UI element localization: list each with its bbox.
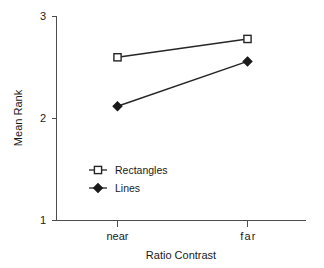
legend-label-rectangles: Rectangles	[115, 164, 168, 176]
series-rectangles-segment	[118, 39, 248, 57]
y-axis-title: Mean Rank	[12, 89, 24, 146]
series-rectangles	[114, 35, 251, 61]
legend-entry-lines: Lines	[89, 182, 140, 194]
chart-legend: Rectangles Lines	[89, 164, 168, 194]
legend-marker-open-square	[94, 166, 101, 173]
xtick-label-far: far	[240, 230, 256, 242]
datapoint-lines-far	[243, 57, 252, 66]
legend-marker-filled-diamond	[94, 184, 103, 193]
x-axis-title: Ratio Contrast	[146, 249, 216, 261]
xtick-label-near: near	[106, 230, 128, 242]
axis-lines	[57, 17, 306, 221]
datapoint-rectangles-near	[114, 54, 121, 61]
ytick-label-1: 1	[40, 214, 46, 226]
datapoint-rectangles-far	[244, 35, 251, 42]
series-lines	[113, 57, 252, 111]
mean-rank-line-chart: 3 2 1 near far Ratio Contrast Mean Rank …	[0, 0, 324, 268]
datapoint-lines-near	[113, 102, 122, 111]
ytick-label-3: 3	[40, 10, 46, 22]
legend-entry-rectangles: Rectangles	[89, 164, 168, 176]
series-lines-segment	[118, 61, 248, 106]
ytick-label-2: 2	[40, 112, 46, 124]
legend-label-lines: Lines	[115, 182, 140, 194]
chart-figure: 3 2 1 near far Ratio Contrast Mean Rank …	[0, 0, 324, 268]
